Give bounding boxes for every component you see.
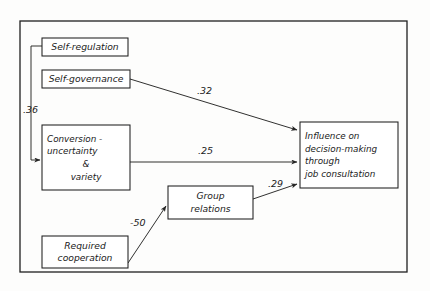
node-label-self-governance-line-0: Self-governance <box>49 73 124 84</box>
node-label-group-relations-line-1: relations <box>191 203 231 214</box>
edge-self-governance-to-influence <box>130 79 297 130</box>
node-group-relations[interactable]: Grouprelations <box>168 186 253 219</box>
path-diagram: Self-regulationSelf-governanceConversion… <box>0 0 430 291</box>
node-label-required-cooperation-line-1: cooperation <box>58 252 113 263</box>
node-label-influence-line-0: Influence on <box>305 131 359 141</box>
edge-self-regulation-to-conversion <box>31 46 42 160</box>
edge-required-cooperation-to-group-relations <box>128 206 166 263</box>
node-conversion[interactable]: Conversion -uncertainty&variety <box>42 125 130 190</box>
node-label-conversion-line-2: & <box>83 159 90 169</box>
nodes-layer: Self-regulationSelf-governanceConversion… <box>42 38 398 268</box>
node-self-governance[interactable]: Self-governance <box>42 70 130 88</box>
edge-label-self-regulation-to-conversion: .36 <box>23 104 38 115</box>
edge-label-conversion-to-influence: .25 <box>198 145 213 156</box>
node-label-influence-line-1: decision-making <box>305 144 378 154</box>
node-label-influence-line-2: through <box>305 156 340 166</box>
node-label-self-regulation-line-0: Self-regulation <box>51 41 118 52</box>
node-label-required-cooperation-line-0: Required <box>64 240 106 251</box>
edge-label-required-cooperation-to-group-relations: -50 <box>130 217 146 228</box>
node-label-conversion-line-1: uncertainty <box>47 146 98 156</box>
node-label-group-relations-line-0: Group <box>196 190 224 201</box>
edge-label-group-relations-to-influence: .29 <box>268 178 283 189</box>
node-label-conversion-line-3: variety <box>71 172 103 182</box>
diagram-canvas: Self-regulationSelf-governanceConversion… <box>0 0 430 291</box>
node-label-conversion-line-0: Conversion - <box>47 134 102 144</box>
edge-label-self-governance-to-influence: .32 <box>197 85 212 96</box>
node-influence[interactable]: Influence ondecision-makingthroughjob co… <box>300 122 398 188</box>
node-required-cooperation[interactable]: Requiredcooperation <box>42 236 128 268</box>
node-self-regulation[interactable]: Self-regulation <box>42 38 128 56</box>
node-label-influence-line-3: job consultation <box>304 169 375 179</box>
